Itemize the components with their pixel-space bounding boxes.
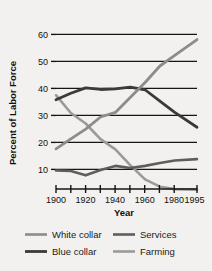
x-tick-label-1980: 1980 — [164, 195, 184, 205]
legend-label-white-collar: White collar — [52, 229, 102, 240]
y-tick-label-50: 50 — [38, 57, 48, 67]
x-tick-label-1960: 1960 — [135, 195, 155, 205]
x-tick-label-1900: 1900 — [46, 195, 66, 205]
x-axis-title: Year — [114, 207, 134, 218]
y-tick-label-30: 30 — [38, 111, 48, 121]
y-tick-label-10: 10 — [38, 165, 48, 175]
legend-label-farming: Farming — [140, 246, 175, 257]
y-tick-label-60: 60 — [38, 30, 48, 40]
chart-figure: Percent of Labor Force 60 50 40 30 20 10 — [0, 0, 212, 271]
y-axis-title: Percent of Labor Force — [7, 61, 18, 165]
series-line-blue-collar — [56, 87, 197, 127]
legend-label-blue-collar: Blue collar — [52, 246, 96, 257]
y-tick-label-40: 40 — [38, 84, 48, 94]
chart-legend: White collar Services Blue collar Farmin… — [25, 229, 177, 257]
series-line-white-collar — [56, 40, 197, 149]
legend-label-services: Services — [140, 229, 177, 240]
y-tick-label-20: 20 — [38, 138, 48, 148]
x-tick-label-1920: 1920 — [76, 195, 96, 205]
x-tick-label-1995: 1995 — [184, 195, 204, 205]
line-chart: Percent of Labor Force 60 50 40 30 20 10 — [0, 0, 212, 271]
x-tick-label-1940: 1940 — [105, 195, 125, 205]
